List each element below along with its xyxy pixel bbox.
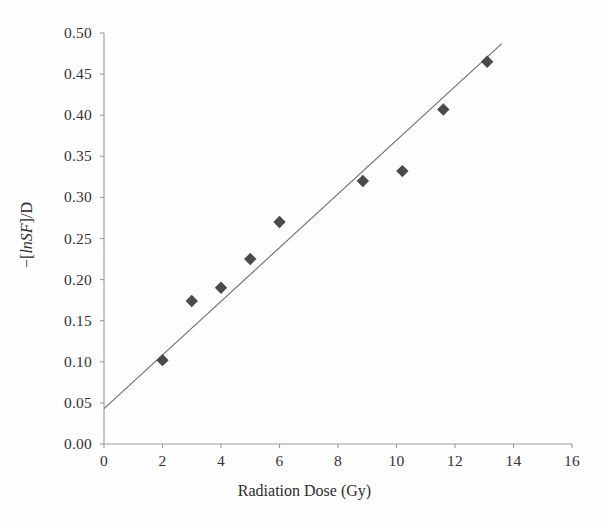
axes-group [100,33,572,448]
data-point-marker [273,216,285,228]
data-point-marker [396,165,408,177]
x-axis-ticks [104,444,572,448]
x-tick-label: 8 [334,452,342,470]
data-point-marker [215,282,227,294]
data-point-marker [186,295,198,307]
x-tick-label: 0 [100,452,108,470]
y-axis-title: −[lnSF]/D [18,202,36,268]
y-axis-title-italic: lnSF [18,223,35,253]
data-point-marker [156,354,168,366]
x-tick-label: 12 [447,452,463,470]
y-axis-title-prefix: −[ [18,254,35,268]
scatter-chart-figure: 0.000.050.100.150.200.250.300.350.400.45… [0,0,609,523]
x-tick-label: 6 [276,452,284,470]
data-point-markers [156,56,493,367]
data-point-marker [481,56,493,68]
x-tick-label: 14 [506,452,522,470]
data-point-marker [437,103,449,115]
x-tick-label: 16 [564,452,580,470]
x-tick-label: 10 [389,452,405,470]
x-tick-label: 4 [217,452,225,470]
data-point-marker [357,175,369,187]
y-axis-title-wrap: −[lnSF]/D [14,0,40,470]
y-axis-ticks [100,33,104,444]
data-point-marker [244,253,256,265]
y-axis-title-suffix: ]/D [18,202,35,223]
x-tick-label: 2 [159,452,167,470]
fit-line-group [104,44,502,409]
x-axis-title: Radiation Dose (Gy) [0,482,609,500]
trend-line [104,44,502,409]
